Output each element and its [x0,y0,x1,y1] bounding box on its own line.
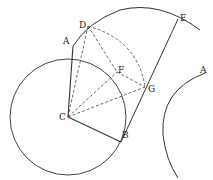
dashed-cf [68,72,117,117]
label-a2: A [199,65,207,75]
label-f: F [118,65,124,75]
label-b: B [122,130,129,140]
dashed-df [88,26,117,72]
dashed-cg [68,87,145,117]
geometry-diagram: A D E F G C B A [0,0,213,180]
label-d: D [79,20,86,30]
label-e: E [180,13,187,23]
right-partial-circle [163,73,205,178]
segment-be [121,19,178,142]
segment-cb [68,117,121,142]
dashed-arc-dg [88,26,145,87]
label-a: A [62,36,70,46]
label-g: G [148,84,155,94]
label-c: C [59,112,66,122]
